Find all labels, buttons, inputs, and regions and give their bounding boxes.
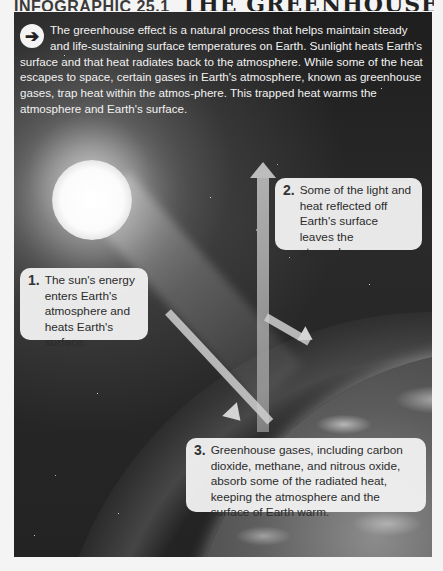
callout-step-3: 3. Greenhouse gases, including carbon di… [186,438,426,512]
callout-number: 2. [283,183,295,245]
callout-number: 1. [28,273,40,335]
callout-step-2: 2. Some of the light and heat reflected … [275,178,422,250]
callout-text: Some of the light and heat reflected off… [300,183,414,245]
reflected-heat-arrow-up-shaft [257,172,269,432]
intro-paragraph: ➔ The greenhouse effect is a natural pro… [20,22,425,117]
arrow-right-circle-icon: ➔ [20,24,44,48]
callout-step-1: 1. The sun's energy enters Earth's atmos… [20,268,148,340]
infographic-label: INFOGRAPHIC 25.1 [14,0,170,11]
infographic-heading: INFOGRAPHIC 25.1 THE GREENHOUSE EFFECT [14,0,434,11]
infographic-title: THE GREENHOUSE EFFECT [181,0,434,11]
sun [52,160,132,240]
arrow-up-icon [250,162,276,178]
callout-number: 3. [194,443,206,507]
callout-text: Greenhouse gases, including carbon dioxi… [211,443,418,507]
callout-text: The sun's energy enters Earth's atmosphe… [45,273,140,335]
intro-text: The greenhouse effect is a natural proce… [20,23,423,115]
